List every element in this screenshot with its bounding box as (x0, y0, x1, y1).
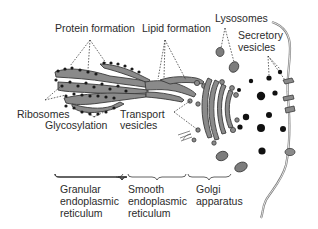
label-lipid-formation: Lipid formation (142, 22, 211, 34)
section-smooth-er-line3: reticulum (128, 207, 171, 219)
endomembrane-diagram: Protein formation Lipid formation Lysoso… (0, 0, 318, 229)
section-golgi-line2: apparatus (196, 195, 243, 207)
section-smooth-er-line1: Smooth (128, 183, 164, 195)
section-golgi-line1: Golgi (196, 183, 221, 195)
section-granular-er-line3: reticulum (60, 207, 103, 219)
secretory-vesicles (237, 70, 286, 155)
golgi-apparatus (202, 78, 239, 145)
section-granular-er-line2: endoplasmic (60, 195, 119, 207)
smooth-er (145, 77, 204, 102)
label-transport-vesicles-2: vesicles (120, 119, 157, 131)
label-secretory-vesicles-2: vesicles (238, 41, 275, 53)
granular-er (55, 64, 150, 113)
label-protein-formation: Protein formation (55, 22, 135, 34)
label-secretory-vesicles-1: Secretory (238, 29, 284, 41)
section-smooth-er-line2: endoplasmic (128, 195, 187, 207)
label-glycosylation: Glycosylation (45, 119, 108, 131)
section-braces (55, 174, 231, 180)
section-labels: Granular endoplasmic reticulum Smooth en… (60, 183, 243, 219)
section-granular-er-line1: Granular (60, 183, 101, 195)
label-lysosomes: Lysosomes (215, 12, 268, 24)
